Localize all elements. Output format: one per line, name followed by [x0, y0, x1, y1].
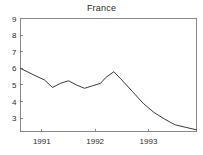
y-tick-label: 4 — [12, 98, 17, 107]
data-series-france — [21, 68, 197, 129]
y-tick-label: 7 — [12, 48, 17, 57]
x-tick-label: 1992 — [86, 137, 104, 146]
y-tick-label: 9 — [12, 15, 17, 24]
y-tick-label: 3 — [12, 114, 17, 123]
line-chart-plot: 9876543 199119921993 — [0, 0, 203, 155]
y-tick-label: 8 — [12, 31, 17, 40]
x-axis-tick-labels: 199119921993 — [33, 137, 158, 146]
y-tick-label: 5 — [12, 81, 17, 90]
y-axis-tick-labels: 9876543 — [12, 15, 17, 124]
y-tick-label: 6 — [12, 64, 17, 73]
x-tick-label: 1991 — [33, 137, 51, 146]
chart-root: France 9876543 199119921993 — [0, 0, 203, 155]
x-tick-label: 1993 — [140, 137, 158, 146]
